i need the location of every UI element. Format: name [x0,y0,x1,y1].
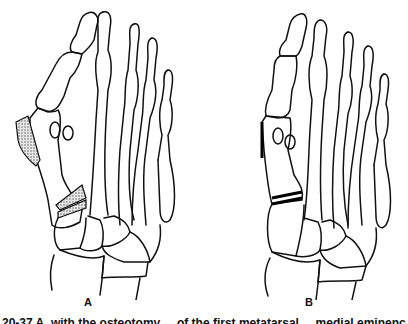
figure-caption: 20-37 A, with the osteotomy ... of the f… [2,315,406,324]
panel-label-b: B [305,296,313,308]
panel-b-illustration [204,0,408,300]
foot-skeleton-a-drawing [0,0,204,300]
foot-skeleton-b-drawing [204,0,408,300]
panel-label-a: A [84,296,92,308]
panel-a-illustration [0,0,204,300]
figure: A [0,0,408,324]
